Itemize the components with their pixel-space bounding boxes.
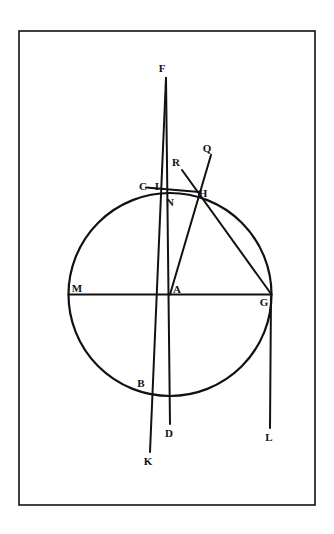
point-label-B: B — [137, 377, 145, 389]
point-label-G: G — [260, 296, 269, 308]
point-label-I: I — [155, 180, 159, 192]
segment-G-to-L — [270, 295, 271, 429]
point-label-N: N — [166, 196, 174, 208]
figure-root: F Q R C I H N M A G B D L K — [0, 0, 334, 534]
point-label-D: D — [165, 427, 173, 439]
point-label-K: K — [144, 455, 153, 467]
point-label-Q: Q — [203, 142, 212, 154]
point-label-C: C — [139, 180, 147, 192]
point-label-F: F — [159, 62, 166, 74]
geometry-diagram: F Q R C I H N M A G B D L K — [0, 0, 334, 534]
point-label-A: A — [173, 283, 181, 295]
point-label-H: H — [199, 187, 208, 199]
point-label-R: R — [172, 156, 181, 168]
point-label-L: L — [265, 431, 272, 443]
point-label-M: M — [72, 282, 83, 294]
